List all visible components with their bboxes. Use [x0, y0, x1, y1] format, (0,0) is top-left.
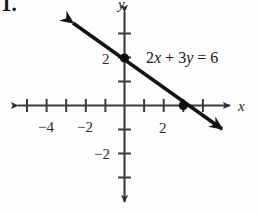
figure-canvas: 1.: [0, 0, 259, 214]
equation-plus: +: [161, 49, 178, 66]
graph-line: [73, 23, 222, 129]
equation-equals: =: [193, 49, 210, 66]
equation-var-x: x: [153, 49, 161, 66]
line-2x-plus-3y-equals-6: [73, 23, 222, 129]
y-tick-label-neg2: −2: [94, 146, 110, 162]
x-tick-label-neg2: −2: [77, 119, 93, 135]
equation-coef-y: 3: [178, 49, 186, 66]
equation-annotation: 2x + 3y = 6: [146, 49, 218, 67]
y-tick-label-pos2: 2: [102, 51, 110, 67]
point-y-intercept: [120, 53, 129, 62]
x-axis-label: x: [237, 98, 245, 114]
x-tick-label-pos2: 2: [159, 120, 167, 136]
equation-rhs: 6: [210, 49, 218, 66]
equation-coef-x: 2: [146, 49, 154, 66]
coordinate-plane-graph: x y −4 −2 2 2 −2 2x + 3y = 6: [0, 0, 259, 214]
y-axis-label: y: [116, 0, 125, 12]
x-tick-label-neg4: −4: [38, 119, 54, 135]
point-x-intercept: [179, 101, 188, 110]
